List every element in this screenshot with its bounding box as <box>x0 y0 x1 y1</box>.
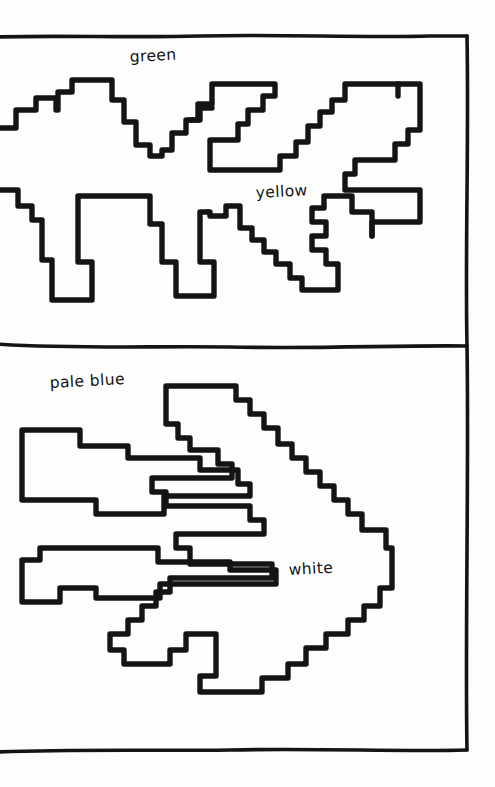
white-region-outline <box>110 386 392 692</box>
label-yellow: yellow <box>255 181 308 202</box>
green-region-outline <box>0 80 214 300</box>
frame-right-rule <box>466 36 467 750</box>
label-white: white <box>288 559 333 579</box>
frame-top-rule <box>0 35 467 37</box>
drawing-canvas: green yellow pale blue white <box>0 0 495 787</box>
frame-bottom-rule <box>0 749 467 752</box>
label-pale-blue: pale blue <box>49 370 125 392</box>
frame-middle-rule <box>0 344 467 348</box>
label-green: green <box>129 46 177 66</box>
hand-drawn-diagram: green yellow pale blue white <box>0 0 495 787</box>
